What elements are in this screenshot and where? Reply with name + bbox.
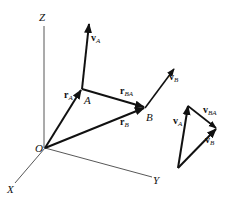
r-ba-arrow <box>82 89 144 107</box>
z-axis-label: Z <box>39 11 46 23</box>
triangle-v-a-label: vA <box>173 115 183 128</box>
r-ba-label: rBA <box>120 85 134 98</box>
relative-motion-diagram: Z X Y O A B rA rB rBA vA vB vA vBA vB <box>0 0 232 201</box>
r-b-arrow <box>45 108 144 148</box>
triangle-v-ba-label: vBA <box>203 104 217 117</box>
r-a-label: rA <box>64 89 73 102</box>
v-a-label: vA <box>91 32 101 45</box>
v-a-arrow <box>82 24 89 89</box>
r-a-arrow <box>45 90 81 148</box>
origin-label: O <box>35 142 43 154</box>
point-a-label: A <box>83 94 91 106</box>
r-b-label: rB <box>120 116 129 129</box>
y-axis <box>45 148 152 177</box>
point-b-label: B <box>146 111 153 123</box>
y-axis-label: Y <box>153 174 161 186</box>
v-b-label: vB <box>169 71 179 84</box>
x-axis-label: X <box>6 183 15 195</box>
